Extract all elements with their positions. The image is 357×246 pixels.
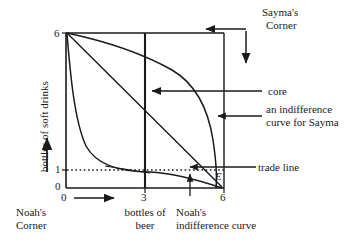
x-axis-label-line2: beer	[110, 219, 180, 231]
trade-line-label: trade line	[258, 161, 299, 173]
sayma-corner-label-line1: Sayma's	[262, 6, 298, 18]
y-tick-label-6: 6	[54, 28, 60, 39]
sayma-curve-label-line2: curve for Sayma	[266, 116, 339, 128]
noah-curve-label-line2: indifference curve	[176, 219, 256, 231]
y-tick-label-1: 1	[55, 164, 61, 175]
figure-page: 6 1 0 0 3 6 E bottles of soft drinks bot…	[0, 0, 357, 246]
y-tick-label-0: 0	[55, 181, 61, 192]
core-label: core	[268, 85, 287, 97]
x-tick-label-3: 3	[141, 192, 147, 203]
noah-curve-label-line1: Noah's	[176, 206, 206, 218]
x-tick-label-0: 0	[61, 192, 67, 203]
point-e-label: E	[215, 170, 222, 182]
sayma-curve-label-line1: an indifference	[266, 103, 332, 115]
x-axis-label-line1: bottles of	[110, 206, 180, 218]
y-axis-label: bottles of soft drinks	[38, 81, 50, 172]
noah-corner-label-line1: Noah's	[16, 206, 46, 218]
noah-corner-label-line2: Corner	[16, 219, 47, 231]
x-tick-label-6: 6	[220, 192, 226, 203]
sayma-corner-label-line2: Corner	[266, 19, 297, 31]
